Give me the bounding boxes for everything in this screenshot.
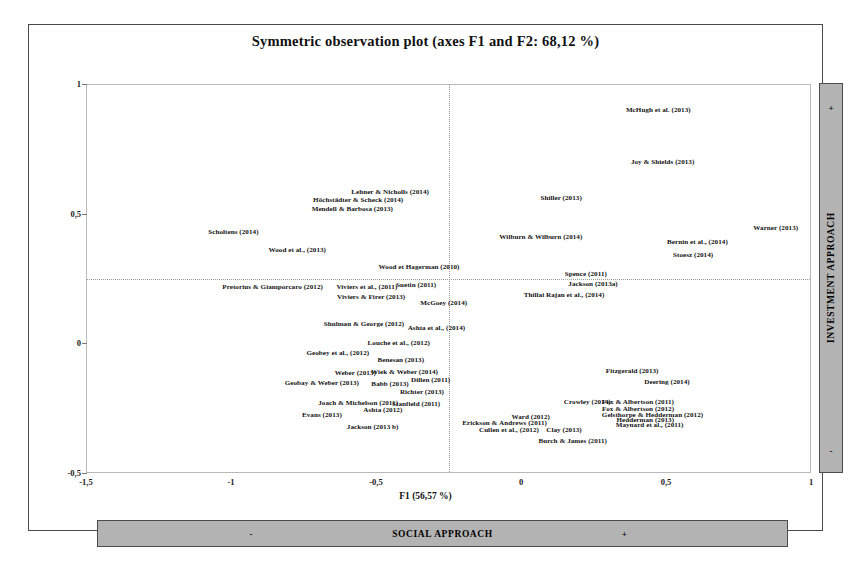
data-point-label: Spence (2011): [565, 270, 607, 278]
x-tick-label: -0,5: [346, 477, 406, 487]
data-point-label: Richter (2013): [400, 388, 444, 396]
investment-approach-banner: + INVESTMENT APPROACH -: [819, 83, 843, 473]
social-approach-plus: +: [622, 529, 627, 539]
data-point-label: Viviers et al., (2011): [336, 283, 397, 291]
investment-approach-label: INVESTMENT APPROACH: [820, 84, 842, 472]
data-point-label: Scholtens (2014): [208, 228, 258, 236]
y-tick-mark: [82, 84, 87, 85]
data-point-label: Geobey et al., (2012): [306, 349, 369, 357]
chart-title: Symmetric observation plot (axes F1 and …: [29, 33, 822, 50]
y-tick-label: 0: [37, 338, 81, 348]
data-point-label: Wilburn & Wilburn (2014): [499, 233, 582, 241]
y-tick-mark: [82, 214, 87, 215]
data-point-label: Wood et Hagerman (2010): [379, 263, 460, 271]
x-tick-label: 1: [781, 477, 841, 487]
horizontal-zero-gridline: [87, 279, 810, 280]
data-point-label: Louche et al., (2012): [368, 339, 430, 347]
social-approach-label: SOCIAL APPROACH: [98, 521, 787, 546]
x-axis-label: F1 (56,57 %): [29, 491, 822, 501]
data-point-label: Cullen et al., (2012): [479, 426, 539, 434]
data-point-label: Shiller (2013): [540, 194, 581, 202]
data-point-label: Jackson (2013 b): [347, 423, 399, 431]
data-point-label: Wood et al., (2013): [269, 246, 327, 254]
data-point-label: Joy & Shields (2013): [631, 158, 694, 166]
data-point-label: Evans (2013): [302, 411, 342, 419]
data-point-label: Babb (2013): [371, 380, 408, 388]
data-point-label: Benesan (2013): [377, 356, 424, 364]
data-point-label: Viviers & Firer (2013): [337, 293, 405, 301]
data-point-label: Thillai Rajan et al., (2014): [524, 291, 605, 299]
x-tick-label: 0: [491, 477, 551, 487]
x-tick-label: -1,5: [56, 477, 116, 487]
data-point-label: Jackson (2013a): [568, 280, 617, 288]
data-point-label: Wiek & Weber (2014): [371, 368, 438, 376]
data-point-label: Mendell & Barbosa (2013): [312, 205, 393, 213]
data-point-label: Warner (2013): [753, 224, 798, 232]
data-point-label: Geobay & Weber (2013): [285, 379, 359, 387]
data-point-label: Weber (2013): [335, 369, 376, 377]
data-point-label: Burch & James (2011): [539, 437, 607, 445]
y-tick-label: 0,5: [37, 209, 81, 219]
investment-approach-minus: -: [830, 446, 833, 456]
data-point-label: Dillen (2011): [411, 376, 450, 384]
social-approach-banner: - SOCIAL APPROACH +: [97, 520, 788, 547]
data-point-label: Ashta et al., (2014): [408, 324, 466, 332]
data-point-label: McGoey (2014): [420, 299, 467, 307]
data-point-label: Bernin et al., (2014): [667, 238, 728, 246]
data-point-label: McHugh et al. (2013): [626, 106, 691, 114]
data-point-label: Maynard et al., (2011): [616, 421, 684, 429]
x-tick-label: 0,5: [636, 477, 696, 487]
data-point-label: Pretorius & Giamporcaro (2012): [222, 283, 323, 291]
y-tick-mark: [82, 473, 87, 474]
data-point-label: Lehner & Nicholls (2014): [351, 188, 429, 196]
data-point-label: Deering (2014): [644, 378, 689, 386]
data-point-label: Suetin (2011): [396, 281, 436, 289]
data-point-label: Fitzgerald (2013): [606, 367, 659, 375]
x-tick-label: -1: [201, 477, 261, 487]
figure-frame: Symmetric observation plot (axes F1 and …: [28, 24, 823, 531]
data-point-label: Clay (2013): [546, 426, 581, 434]
data-point-label: Stoesz (2014): [673, 251, 713, 259]
y-tick-mark: [82, 343, 87, 344]
data-point-label: Shulman & George (2012): [324, 320, 405, 328]
plot-area: McHugh et al. (2013)Joy & Shields (2013)…: [86, 84, 811, 473]
y-tick-label: 1: [37, 79, 81, 89]
figure-page: Symmetric observation plot (axes F1 and …: [0, 0, 853, 567]
data-point-label: Ashta (2012): [363, 406, 402, 414]
data-point-label: Höchstädter & Scheck (2014): [313, 196, 403, 204]
